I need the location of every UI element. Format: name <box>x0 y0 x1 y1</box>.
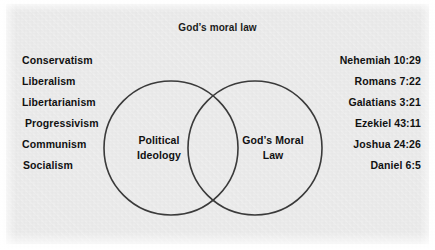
venn-label-line: Ideology <box>117 148 201 163</box>
venn-label-line: Political <box>117 133 201 148</box>
venn-circles <box>0 0 435 250</box>
venn-diagram-figure: God’s moral law Conservatism Liberalism … <box>0 0 435 250</box>
venn-label-political-ideology: Political Ideology <box>117 133 201 163</box>
venn-label-gods-moral-law: God’s Moral Law <box>230 133 316 163</box>
venn-label-line: God’s Moral <box>230 133 316 148</box>
venn-label-line: Law <box>230 148 316 163</box>
